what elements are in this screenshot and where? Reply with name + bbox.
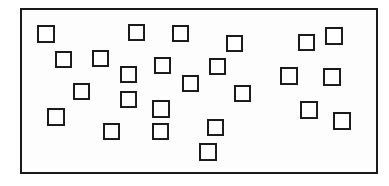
square-22 [103,123,120,140]
square-5 [298,34,315,51]
square-10 [154,57,171,74]
square-13 [323,68,341,86]
square-18 [47,108,65,126]
square-23 [152,123,169,140]
square-11 [209,58,226,75]
square-19 [152,100,170,118]
square-16 [120,91,137,108]
square-2 [128,24,145,41]
square-7 [55,51,72,68]
square-4 [226,35,243,52]
square-14 [73,83,90,100]
square-12 [280,67,298,85]
square-24 [207,119,224,136]
square-8 [92,50,109,67]
square-20 [300,101,318,119]
square-25 [199,143,217,161]
square-3 [172,25,189,42]
square-17 [234,85,251,102]
figure-canvas [0,0,389,186]
square-21 [333,112,351,130]
square-9 [120,66,137,83]
square-1 [37,25,55,43]
square-6 [325,27,343,45]
square-15 [182,75,199,92]
